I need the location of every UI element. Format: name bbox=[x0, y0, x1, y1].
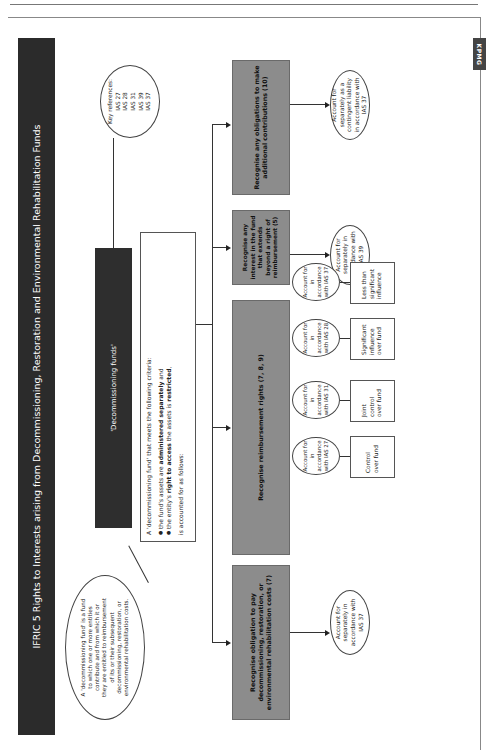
outcome-ellipse: Account for in accordance with IAS 31 bbox=[292, 381, 340, 419]
outcome-text: Account for in accordance with IAS 37 bbox=[302, 266, 330, 298]
connector-line bbox=[340, 282, 350, 283]
criteria-bold: right to access bbox=[165, 443, 172, 493]
connector-line bbox=[212, 427, 227, 428]
criteria-text: the fund's assets are bbox=[157, 464, 164, 529]
branch-label: Recognise any interest in the fund that … bbox=[242, 214, 280, 281]
criteria-item: the fund's assets are administered separ… bbox=[157, 239, 165, 535]
branch-label: Recognise obligation to pay decommission… bbox=[249, 569, 274, 716]
branch-box-additional-contributions: Recognise any obligations to make additi… bbox=[232, 60, 290, 195]
connector-line bbox=[290, 254, 326, 255]
criteria-outro: is accounted for as follows: bbox=[177, 239, 185, 535]
criteria-text: and bbox=[157, 368, 164, 381]
outcome-text: Account for separately in accordance wit… bbox=[335, 595, 365, 650]
condition-text: Control over fund bbox=[365, 441, 380, 473]
connector-line bbox=[290, 632, 326, 633]
key-ref-item: IAS 27 bbox=[115, 79, 123, 124]
outcome-text: Account for in accordance with IAS 31 bbox=[302, 384, 330, 416]
branch-box-reimbursement: Recognise reimbursement rights (7, 8, 9) bbox=[232, 300, 290, 555]
key-ref-item: IAS 28 bbox=[122, 79, 130, 124]
header-box-label: 'Decommissioning funds' bbox=[110, 344, 118, 432]
arrow-icon bbox=[226, 425, 231, 431]
branch-label: Recognise reimbursement rights (7, 8, 9) bbox=[257, 354, 265, 501]
key-references-circle: Key references: IAS 27 IAS 28 IAS 31 IAS… bbox=[100, 65, 160, 138]
arrow-icon bbox=[226, 122, 231, 128]
criteria-bold: restricted bbox=[165, 368, 172, 401]
arrow-icon bbox=[226, 640, 231, 646]
diagram-canvas: IFRIC 5 Rights to Interests arising from… bbox=[0, 0, 497, 755]
condition-box: Control over fund bbox=[350, 436, 395, 478]
condition-box: Less than significant influence bbox=[350, 262, 395, 304]
criteria-intro: A 'decommissioning fund' that meets the … bbox=[145, 239, 153, 535]
criteria-text: the assets is bbox=[165, 402, 172, 443]
outcome-text: Account for separately as a contingent l… bbox=[331, 75, 369, 135]
condition-text: Significant influence over fund bbox=[361, 323, 384, 355]
condition-text: Joint control over fund bbox=[361, 385, 384, 417]
criteria-bold: administered separately bbox=[157, 382, 164, 465]
definition-text: A 'decommissioning fund' is a fund to wh… bbox=[80, 598, 131, 697]
branch-box-interest: Recognise any interest in the fund that … bbox=[232, 210, 290, 285]
arrow-icon bbox=[325, 630, 330, 636]
criteria-item: the entity's right to access the assets … bbox=[165, 239, 173, 535]
criteria-text: , bbox=[165, 367, 172, 369]
outcome-text: Account for in accordance with IAS 27 bbox=[302, 440, 330, 472]
decommissioning-funds-header: 'Decommissioning funds' bbox=[95, 248, 132, 528]
outcome-circle: Account for separately as a contingent l… bbox=[330, 70, 370, 140]
connector-line bbox=[212, 247, 227, 248]
diagram-title: IFRIC 5 Rights to Interests arising from… bbox=[31, 124, 42, 648]
connector-line bbox=[340, 338, 350, 339]
key-ref-item: IAS 39 bbox=[138, 79, 146, 124]
connector-line bbox=[128, 545, 149, 583]
connector-line bbox=[212, 642, 227, 643]
outcome-circle: Account for separately in accordance wit… bbox=[330, 590, 370, 655]
connector-line bbox=[340, 400, 350, 401]
connector-line bbox=[212, 124, 227, 125]
connector-line bbox=[196, 324, 212, 325]
condition-box: Significant influence over fund bbox=[350, 318, 395, 360]
outcome-ellipse: Account for in accordance with IAS 27 bbox=[292, 437, 340, 475]
connector-line bbox=[340, 456, 350, 457]
branch-spine bbox=[212, 125, 213, 643]
condition-text: Less than significant influence bbox=[361, 267, 384, 299]
criteria-box: A 'decommissioning fund' that meets the … bbox=[140, 232, 196, 542]
key-references-label: Key references: bbox=[107, 79, 115, 124]
outcome-text: Account for in accordance with IAS 28 bbox=[302, 322, 330, 354]
key-ref-item: IAS 31 bbox=[130, 79, 138, 124]
definition-circle: A 'decommissioning fund' is a fund to wh… bbox=[65, 575, 145, 720]
connector-line bbox=[113, 138, 114, 248]
outcome-ellipse: Account for in accordance with IAS 37 bbox=[292, 263, 340, 301]
outcome-ellipse: Account for in accordance with IAS 28 bbox=[292, 319, 340, 357]
diagram-title-bar: IFRIC 5 Rights to Interests arising from… bbox=[18, 38, 55, 735]
connector-line bbox=[290, 104, 326, 105]
branch-label: Recognise any obligations to make additi… bbox=[253, 64, 269, 191]
key-ref-item: IAS 37 bbox=[145, 79, 153, 124]
branch-box-obligation: Recognise obligation to pay decommission… bbox=[232, 565, 290, 720]
condition-box: Joint control over fund bbox=[350, 380, 395, 422]
criteria-text: the entity's bbox=[165, 493, 172, 529]
criteria-list: the fund's assets are administered separ… bbox=[157, 239, 173, 535]
arrow-icon bbox=[226, 245, 231, 251]
